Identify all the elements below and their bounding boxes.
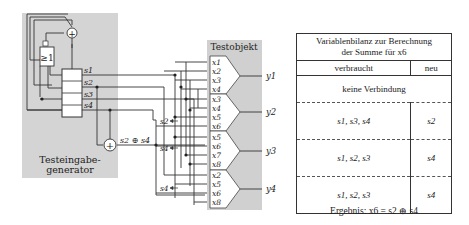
xor-gate-top: + (67, 28, 77, 39)
input-label: x5 (212, 133, 221, 142)
circuit-diagram: ≥1 + + s1 s2 s3 s4 s2 ⊕ s4 Testeingabe- … (0, 0, 290, 225)
label-s1: s1 (84, 66, 93, 75)
generator-label-line2: generator (46, 164, 94, 175)
table-title: Variablenbilanz zur Berechnung der Summe… (297, 34, 452, 61)
cell-new: s2 (411, 103, 452, 140)
input-label: x8 (212, 160, 221, 169)
arrow-label-s4-bottom: s4 (160, 184, 169, 193)
output-label-y3: y3 (265, 146, 276, 156)
input-label: x6 (212, 189, 221, 198)
output-label-y1: y1 (265, 71, 276, 81)
table-row: s1, s3, s4 s2 (297, 103, 452, 140)
xor-gate-bottom: + (104, 139, 116, 151)
xor-output-label: s2 ⊕ s4 (120, 136, 150, 145)
variable-balance-table: Variablenbilanz zur Berechnung der Summe… (296, 33, 452, 214)
no-connection-row: keine Verbindung (297, 76, 452, 103)
svg-text:+: + (106, 140, 114, 151)
cell-new: s4 (411, 140, 452, 177)
column-header-used: verbraucht (297, 61, 411, 76)
testobject-title: Testobjekt (210, 42, 258, 52)
label-s2: s2 (84, 78, 93, 87)
column-header-new: neu (411, 61, 452, 76)
table-row: s1, s2, s3 s4 (297, 140, 452, 177)
cell-used: s1, s3, s4 (297, 103, 411, 140)
result-caption: Ergebnis: x6 = s2 ⊕ s4 (296, 205, 452, 216)
input-label: x3 (212, 95, 221, 104)
svg-text:+: + (68, 29, 76, 39)
input-label: x1 (212, 58, 221, 67)
input-label: x5 (212, 180, 221, 189)
variable-balance-table-container: Variablenbilanz zur Berechnung der Summe… (296, 33, 452, 214)
input-label: x4 (212, 104, 221, 113)
input-label: x2 (212, 67, 221, 76)
svg-text:≥1: ≥1 (40, 53, 53, 63)
input-label: x4 (212, 85, 221, 94)
arrow-label-s2: s2 (160, 117, 169, 126)
label-s3: s3 (84, 90, 93, 99)
input-label: x6 (212, 142, 221, 151)
input-label: x8 (212, 198, 221, 207)
label-s4: s4 (84, 101, 93, 110)
input-label: x3 (212, 76, 221, 85)
shift-register (62, 69, 82, 117)
output-label-y4: y4 (265, 184, 276, 194)
input-label: x7 (212, 151, 221, 160)
arrow-label-s4: s4 (160, 144, 169, 153)
table-title-line1: Variablenbilanz zur Berechnung (316, 36, 432, 46)
input-label: x6 (212, 122, 221, 131)
cell-used: s1, s2, s3 (297, 140, 411, 177)
output-label-y2: y2 (265, 107, 276, 117)
input-label: x2 (212, 171, 221, 180)
table-title-line2: der Summe für x6 (341, 47, 406, 57)
input-label: x5 (212, 113, 221, 122)
